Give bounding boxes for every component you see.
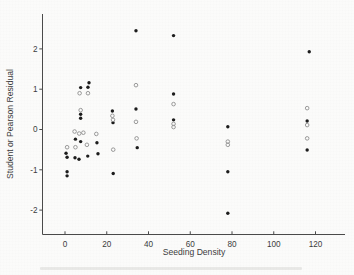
y-tick-label: 1: [33, 85, 38, 94]
filled-point: [172, 34, 175, 37]
open-point: [77, 132, 81, 136]
filled-point: [95, 141, 98, 144]
open-point: [78, 91, 82, 95]
filled-point: [64, 152, 67, 155]
y-tick-label: 2: [33, 45, 38, 54]
open-point: [65, 145, 69, 149]
open-point: [134, 83, 138, 87]
data-points: [64, 29, 311, 215]
filled-point: [79, 140, 82, 143]
filled-point: [308, 50, 311, 53]
filled-point: [172, 118, 175, 121]
axes: 020406080100120-2-1012: [30, 14, 345, 249]
filled-point: [79, 117, 82, 120]
x-tick-label: 0: [63, 240, 68, 249]
scatter-plot: 020406080100120-2-1012 Seeding Density S…: [0, 0, 354, 275]
filled-point: [73, 156, 76, 159]
filled-point: [136, 146, 139, 149]
filled-point: [65, 156, 68, 159]
filled-point: [112, 172, 115, 175]
x-tick-label: 120: [309, 240, 323, 249]
open-point: [305, 137, 309, 141]
x-axis-label: Seeding Density: [163, 247, 226, 257]
open-point: [111, 148, 115, 152]
filled-point: [226, 170, 229, 173]
x-tick-label: 40: [144, 240, 154, 249]
open-point: [95, 132, 99, 136]
filled-point: [65, 174, 68, 177]
y-tick-label: 0: [33, 125, 38, 134]
open-point: [82, 131, 86, 135]
x-tick-label: 20: [102, 240, 112, 249]
scan-artifact-line: [40, 267, 302, 270]
filled-point: [172, 92, 175, 95]
filled-point: [79, 86, 82, 89]
x-tick-label: 80: [227, 240, 237, 249]
filled-point: [79, 112, 82, 115]
filled-point: [305, 119, 308, 122]
filled-point: [77, 158, 80, 161]
filled-point: [111, 109, 114, 112]
open-point: [85, 143, 89, 147]
residual-scatter-figure: 020406080100120-2-1012 Seeding Density S…: [0, 0, 354, 275]
filled-point: [74, 137, 77, 140]
open-point: [305, 106, 309, 110]
filled-point: [86, 85, 89, 88]
filled-point: [305, 148, 308, 151]
open-point: [86, 91, 90, 95]
open-point: [135, 137, 139, 141]
open-point: [111, 114, 115, 118]
filled-point: [226, 125, 229, 128]
filled-point: [134, 107, 137, 110]
open-point: [79, 108, 83, 112]
open-point: [134, 120, 138, 124]
filled-point: [96, 152, 99, 155]
filled-point: [86, 154, 89, 157]
open-point: [73, 130, 77, 134]
y-tick-label: -1: [30, 166, 38, 175]
open-point: [74, 145, 78, 149]
filled-point: [87, 81, 90, 84]
x-tick-label: 100: [267, 240, 281, 249]
filled-point: [226, 212, 229, 215]
open-point: [172, 102, 176, 106]
open-point: [305, 123, 309, 127]
filled-point: [134, 29, 137, 32]
y-axis-label: Student or Pearson Residual: [5, 69, 15, 179]
y-tick-label: -2: [30, 206, 38, 215]
filled-point: [65, 170, 68, 173]
